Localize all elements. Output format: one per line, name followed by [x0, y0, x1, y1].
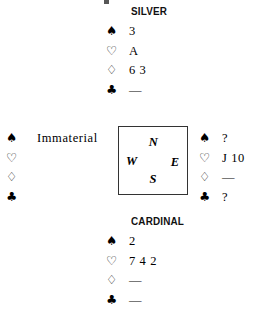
hand-north-clubs-value: — — [129, 81, 142, 101]
club-icon: ♣ — [199, 187, 214, 207]
club-icon: ♣ — [106, 80, 121, 100]
hand-west-spades-row: ♠ Immaterial — [6, 128, 98, 148]
hand-north-spades-value: 3 — [129, 22, 136, 42]
diamond-icon: ♢ — [106, 270, 121, 290]
hand-west-spades-value: Immaterial — [37, 129, 98, 149]
heart-icon: ♡ — [199, 148, 214, 168]
spade-icon: ♠ — [199, 128, 214, 148]
hand-south-diamonds-row: ♢ — — [106, 270, 193, 290]
hand-north: SILVER ♠ 3 ♡ A ♢ 6 3 ♣ — — [106, 5, 173, 99]
hand-east-spades-row: ♠ ? — [199, 128, 245, 148]
hand-north-clubs-row: ♣ — — [106, 80, 173, 100]
hand-south-diamonds-value: — — [129, 271, 142, 291]
scan-artifact — [104, 0, 109, 4]
diamond-icon: ♢ — [6, 167, 21, 187]
hand-east-hearts-value: J 10 — [222, 149, 245, 169]
compass-west-label: W — [126, 154, 137, 167]
hand-west-diamonds-row: ♢ — [6, 167, 98, 187]
hand-south-clubs-row: ♣ — — [106, 290, 193, 310]
hand-north-label: SILVER — [131, 5, 167, 18]
hand-south-hearts-row: ♡ 7 4 2 — [106, 251, 193, 271]
hand-east: ♠ ? ♡ J 10 ♢ — ♣ ? — [199, 128, 245, 206]
hand-south-spades-value: 2 — [129, 232, 136, 252]
heart-icon: ♡ — [106, 251, 121, 271]
compass-south-label: S — [149, 173, 156, 186]
hand-south-label: CARDINAL — [131, 215, 184, 228]
hand-south-clubs-value: — — [129, 291, 142, 311]
hand-east-diamonds-row: ♢ — — [199, 167, 245, 187]
diamond-icon: ♢ — [199, 167, 214, 187]
compass-north-label: N — [149, 136, 158, 149]
hand-east-clubs-row: ♣ ? — [199, 187, 245, 207]
club-icon: ♣ — [6, 187, 21, 207]
hand-north-diamonds-value: 6 3 — [129, 61, 146, 81]
hand-east-spades-value: ? — [222, 129, 228, 149]
spade-icon: ♠ — [6, 128, 21, 148]
club-icon: ♣ — [106, 290, 121, 310]
hand-west: ♠ Immaterial ♡ ♢ ♣ — [6, 128, 98, 206]
hand-north-hearts-row: ♡ A — [106, 41, 173, 61]
hand-east-clubs-value: ? — [222, 188, 228, 208]
hand-north-hearts-value: A — [129, 42, 139, 62]
hand-south: CARDINAL ♠ 2 ♡ 7 4 2 ♢ — ♣ — — [106, 215, 193, 309]
hand-east-diamonds-value: — — [222, 168, 235, 188]
spade-icon: ♠ — [106, 21, 121, 41]
hand-east-hearts-row: ♡ J 10 — [199, 148, 245, 168]
hand-north-spades-row: ♠ 3 — [106, 21, 173, 41]
heart-icon: ♡ — [106, 41, 121, 61]
heart-icon: ♡ — [6, 148, 21, 168]
hand-south-spades-row: ♠ 2 — [106, 231, 193, 251]
compass-east-label: E — [171, 155, 179, 168]
hand-west-clubs-row: ♣ — [6, 187, 98, 207]
hand-north-diamonds-row: ♢ 6 3 — [106, 60, 173, 80]
compass-box: N W E S — [118, 126, 188, 195]
hand-west-hearts-row: ♡ — [6, 148, 98, 168]
spade-icon: ♠ — [106, 231, 121, 251]
hand-south-hearts-value: 7 4 2 — [129, 252, 157, 272]
diamond-icon: ♢ — [106, 60, 121, 80]
